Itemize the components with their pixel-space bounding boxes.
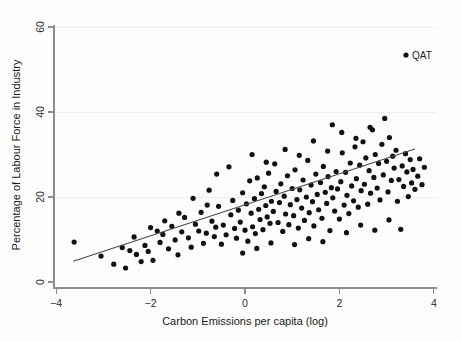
scatter-point <box>321 164 326 169</box>
scatter-point <box>265 214 270 219</box>
scatter-point <box>354 176 359 181</box>
scatter-point <box>238 219 243 224</box>
scatter-point <box>131 234 136 239</box>
scatter-point <box>271 209 276 214</box>
scatter-point <box>245 239 250 244</box>
scatter-point <box>338 179 343 184</box>
scatter-point <box>367 168 372 173</box>
y-axis-title: Percentage of Labour Force in Industry <box>10 59 22 250</box>
plot-svg: 0204060 −4−2024 Percentage of Labour For… <box>0 0 461 342</box>
scatter-point <box>375 185 380 190</box>
scatter-point <box>285 173 290 178</box>
scatter-point <box>209 219 214 224</box>
scatter-point <box>123 265 128 270</box>
scatter-point <box>277 200 282 205</box>
legend-label-qat: QAT <box>412 50 432 61</box>
scatter-point <box>250 224 255 229</box>
scatter-point <box>247 178 252 183</box>
scatter-point <box>296 225 301 230</box>
scatter-point <box>422 165 427 170</box>
scatter-point <box>127 248 132 253</box>
scatter-point <box>201 241 206 246</box>
scatter-point <box>313 171 318 176</box>
scatter-point <box>179 229 184 234</box>
scatter-point <box>175 252 180 257</box>
scatter-point <box>371 175 376 180</box>
scatter-point <box>316 207 321 212</box>
scatter-point <box>393 148 398 153</box>
scatter-point <box>236 208 241 213</box>
scatter-point <box>320 239 325 244</box>
scatter-point <box>344 230 349 235</box>
scatter-point <box>337 217 342 222</box>
scatter-point <box>396 177 401 182</box>
scatter-point <box>335 186 340 191</box>
scatter-point <box>219 242 224 247</box>
scatter-point <box>417 156 422 161</box>
scatter-point <box>72 239 77 244</box>
scatter-point <box>363 155 368 160</box>
x-axis-ticks: −4−2024 <box>50 288 437 309</box>
x-tick-label: 4 <box>431 297 437 309</box>
y-tick-label: 0 <box>34 279 46 285</box>
scatter-point <box>358 222 363 227</box>
scatter-point <box>307 210 312 215</box>
scatter-point <box>199 210 204 215</box>
y-axis-ticks: 0204060 <box>34 21 55 285</box>
scatter-point <box>263 203 268 208</box>
x-tick-label: −4 <box>50 297 62 309</box>
scatter-point <box>385 189 390 194</box>
scatter-point <box>311 223 316 228</box>
scatter-point <box>291 213 296 218</box>
scatter-point <box>368 191 373 196</box>
scatter-point <box>359 188 364 193</box>
scatter-point <box>340 150 345 155</box>
scatter-point <box>264 160 269 165</box>
scatter-point <box>259 191 264 196</box>
scatter-point <box>367 125 372 130</box>
scatter-point <box>406 194 411 199</box>
scatter-point <box>278 181 283 186</box>
scatter-point <box>286 222 291 227</box>
scatter-point <box>213 225 218 230</box>
scatter-point <box>282 194 287 199</box>
scatter-point <box>157 240 162 245</box>
scatter-point <box>280 229 285 234</box>
scatter-point <box>98 253 103 258</box>
scatter-point <box>253 231 258 236</box>
scatter-point <box>242 228 247 233</box>
scatter-point <box>362 182 367 187</box>
gridlines <box>54 27 437 197</box>
scatter-point <box>292 167 297 172</box>
scatter-point <box>249 152 254 157</box>
scatter-point <box>249 211 254 216</box>
scatter-point <box>148 225 153 230</box>
scatter-point <box>292 242 297 247</box>
scatter-point <box>398 227 403 232</box>
scatter-point <box>327 228 332 233</box>
scatter-point <box>182 215 187 220</box>
scatter-point <box>221 222 226 227</box>
scatter-point <box>166 246 171 251</box>
scatter-point <box>134 252 139 257</box>
scatter-point <box>216 204 221 209</box>
scatter-point <box>274 189 279 194</box>
scatter-point <box>332 208 337 213</box>
scatter-point <box>415 174 420 179</box>
y-tick-label: 60 <box>34 21 46 33</box>
legend-qat: QAT <box>403 50 431 61</box>
scatter-point <box>334 169 339 174</box>
scatter-point <box>275 220 280 225</box>
scatter-point <box>410 167 415 172</box>
scatter-point <box>304 194 309 199</box>
scatter-point <box>272 161 277 166</box>
x-tick-label: −2 <box>145 297 157 309</box>
x-tick-label: 2 <box>336 297 342 309</box>
scatter-point <box>346 211 351 216</box>
scatter-point <box>377 197 382 202</box>
scatter-point <box>352 144 357 149</box>
x-axis-title: Carbon Emissions per capita (log) <box>162 315 328 327</box>
scatter-point <box>325 149 330 154</box>
scatter-point <box>260 227 265 232</box>
scatter-point <box>189 245 194 250</box>
